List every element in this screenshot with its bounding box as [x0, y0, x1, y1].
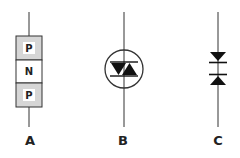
symbol-b-label: B — [118, 133, 128, 148]
layer-p-top-label: P — [25, 43, 32, 54]
symbol-c-label: C — [213, 133, 223, 148]
symbol-a: P N P A — [16, 12, 42, 148]
diagram-canvas: P N P A B C — [0, 0, 240, 158]
symbol-b: B — [105, 12, 143, 148]
layer-n-label: N — [25, 66, 33, 77]
layer-p-bottom-label: P — [25, 90, 32, 101]
triangle-up-icon — [210, 76, 226, 85]
triangle-down-icon — [210, 52, 226, 61]
symbol-a-label: A — [25, 133, 35, 148]
symbol-c: C — [209, 12, 227, 148]
